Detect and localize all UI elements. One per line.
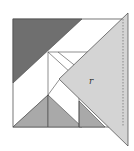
triangle-label: r	[89, 76, 94, 86]
tangram-diagram: r	[0, 0, 134, 151]
